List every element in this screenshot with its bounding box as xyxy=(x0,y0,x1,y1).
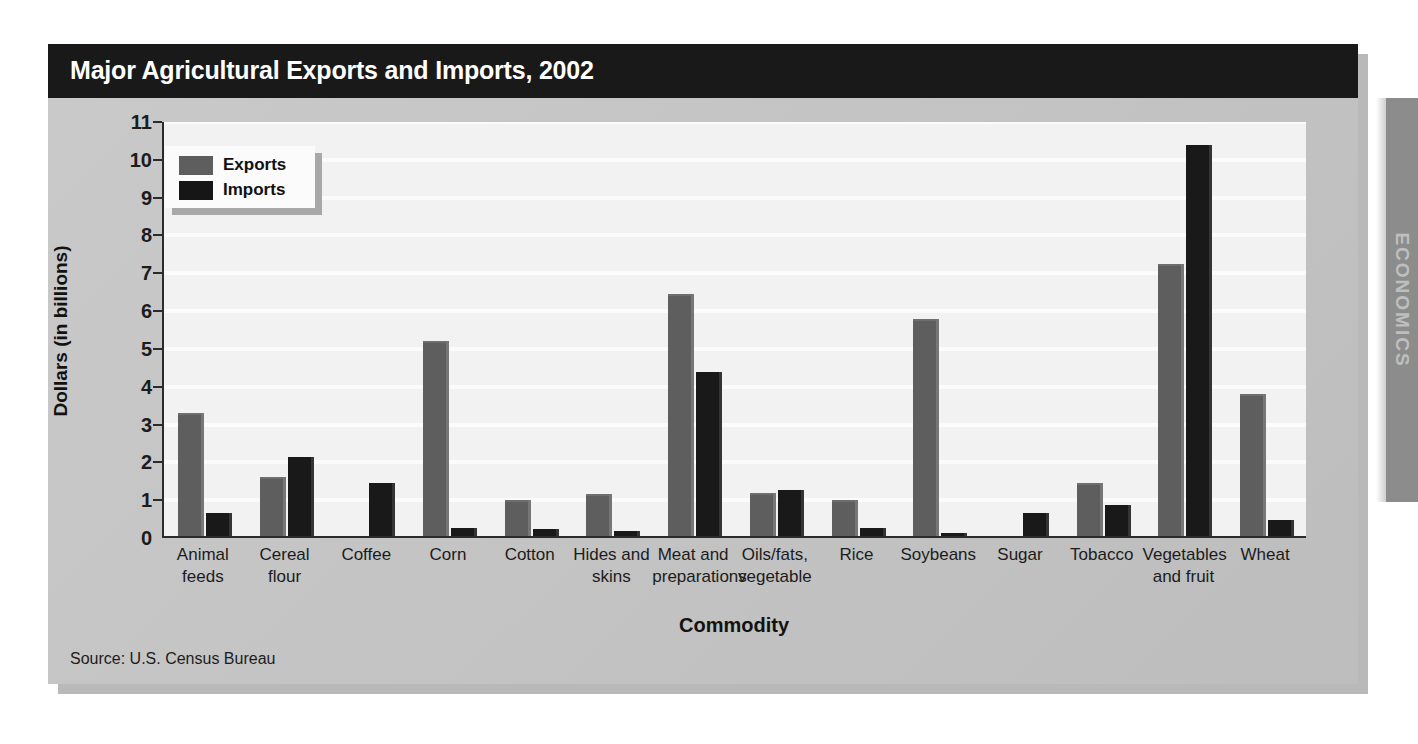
bar-group xyxy=(981,122,1063,536)
page-title: Major Agricultural Exports and Imports, … xyxy=(70,56,594,85)
y-axis-tick-label: 9 xyxy=(141,186,152,209)
x-axis-tick-label-line: Animal xyxy=(162,544,244,566)
x-axis-labels: AnimalfeedsCerealflourCoffeeCornCottonHi… xyxy=(162,544,1306,606)
bar-imports xyxy=(778,490,804,536)
plot-area xyxy=(162,122,1306,538)
bar-group xyxy=(573,122,655,536)
x-axis-tick-label-line: Wheat xyxy=(1224,544,1306,566)
y-axis-tick-label: 7 xyxy=(141,262,152,285)
y-axis-tick-mark xyxy=(153,310,162,312)
bar-imports xyxy=(860,528,886,536)
legend-swatch-icon xyxy=(179,181,213,200)
bar-imports xyxy=(369,483,395,536)
bar-exports xyxy=(260,477,286,536)
x-axis-tick-label: Corn xyxy=(407,544,489,566)
x-axis-tick-label-line: Vegetables xyxy=(1143,544,1225,566)
y-axis-tick-label: 10 xyxy=(130,148,152,171)
bar-imports xyxy=(451,528,477,536)
x-axis-tick-label: Rice xyxy=(816,544,898,566)
y-axis-tick-label: 5 xyxy=(141,337,152,360)
y-axis-tick-mark xyxy=(153,272,162,274)
bar-exports xyxy=(178,413,204,536)
y-axis: 01234567891011 xyxy=(48,122,162,542)
source-note: Source: U.S. Census Bureau xyxy=(70,650,275,668)
x-axis-tick-label-line: Soybeans xyxy=(897,544,979,566)
bar-exports xyxy=(586,494,612,536)
x-axis-tick-label: Tobacco xyxy=(1061,544,1143,566)
chart-legend: ExportsImports xyxy=(165,146,315,208)
bar-exports xyxy=(832,500,858,536)
legend-swatch-icon xyxy=(179,156,213,175)
y-axis-tick-mark xyxy=(153,386,162,388)
x-axis-tick-label-line: Tobacco xyxy=(1061,544,1143,566)
chart-figure: Major Agricultural Exports and Imports, … xyxy=(48,44,1358,684)
y-axis-tick-mark xyxy=(153,499,162,501)
side-tab[interactable]: ECONOMICS xyxy=(1386,98,1418,502)
y-axis-tick-mark xyxy=(153,197,162,199)
bar-exports xyxy=(913,319,939,536)
chart-body: Dollars (in billions) 01234567891011 Exp… xyxy=(48,98,1358,684)
x-axis-tick-label-line: Cereal xyxy=(244,544,326,566)
y-axis-tick-label: 4 xyxy=(141,375,152,398)
x-axis-tick-label-line: Corn xyxy=(407,544,489,566)
bar-exports xyxy=(1077,483,1103,536)
x-axis-tick-label-line: skins xyxy=(571,566,653,588)
bar-group xyxy=(1226,122,1308,536)
x-axis-tick-label: Cotton xyxy=(489,544,571,566)
side-tab-shadow xyxy=(1376,98,1386,502)
bar-group xyxy=(818,122,900,536)
bar-imports xyxy=(614,531,640,536)
x-axis-tick-label-line: preparations xyxy=(652,566,734,588)
x-axis-tick-label-line: Rice xyxy=(816,544,898,566)
x-axis-tick-label-line: vegetable xyxy=(734,566,816,588)
side-tab-label: ECONOMICS xyxy=(1391,232,1413,367)
bar-imports xyxy=(1186,145,1212,536)
y-axis-tick-label: 3 xyxy=(141,413,152,436)
y-axis-tick-label: 0 xyxy=(141,527,152,550)
legend-label: Exports xyxy=(223,155,286,175)
bar-exports xyxy=(423,341,449,536)
bar-imports xyxy=(1268,520,1294,536)
y-axis-tick-label: 11 xyxy=(131,111,152,134)
bar-group xyxy=(1145,122,1227,536)
y-axis-tick-label: 6 xyxy=(141,300,152,323)
bar-group xyxy=(736,122,818,536)
bar-group xyxy=(899,122,981,536)
x-axis-tick-label-line: Cotton xyxy=(489,544,571,566)
x-axis-tick-label: Hides andskins xyxy=(571,544,653,588)
bar-group xyxy=(491,122,573,536)
y-axis-tick-mark xyxy=(153,348,162,350)
bar-group xyxy=(409,122,491,536)
x-axis-tick-label-line: Meat and xyxy=(652,544,734,566)
y-axis-tick-label: 1 xyxy=(141,489,152,512)
chart-title-bar: Major Agricultural Exports and Imports, … xyxy=(48,44,1358,98)
x-axis-tick-label-line: Oils/fats, xyxy=(734,544,816,566)
bar-imports xyxy=(941,533,967,536)
x-axis-tick-label: Soybeans xyxy=(897,544,979,566)
bar-imports xyxy=(1023,513,1049,536)
x-axis-tick-label-line: feeds xyxy=(162,566,244,588)
y-axis-tick-mark xyxy=(153,234,162,236)
y-axis-tick-label: 2 xyxy=(141,451,152,474)
x-axis-tick-label: Animalfeeds xyxy=(162,544,244,588)
y-axis-tick-mark xyxy=(153,461,162,463)
x-axis-tick-label-line: Sugar xyxy=(979,544,1061,566)
x-axis-title: Commodity xyxy=(162,614,1306,637)
bar-group xyxy=(1063,122,1145,536)
bar-imports xyxy=(288,457,314,536)
x-axis-tick-label: Sugar xyxy=(979,544,1061,566)
legend-label: Imports xyxy=(223,180,285,200)
x-axis-tick-label: Coffee xyxy=(325,544,407,566)
y-axis-tick-label: 8 xyxy=(141,224,152,247)
bar-group xyxy=(654,122,736,536)
y-axis-tick-mark xyxy=(153,424,162,426)
x-axis-tick-label-line: and fruit xyxy=(1143,566,1225,588)
bar-series-container xyxy=(164,122,1306,536)
x-axis-tick-label: Oils/fats,vegetable xyxy=(734,544,816,588)
x-axis-tick-label: Cerealflour xyxy=(244,544,326,588)
bar-exports xyxy=(505,500,531,536)
legend-item: Imports xyxy=(179,180,285,200)
bar-exports xyxy=(668,294,694,536)
bar-exports xyxy=(750,493,776,536)
y-axis-tick-mark xyxy=(153,159,162,161)
